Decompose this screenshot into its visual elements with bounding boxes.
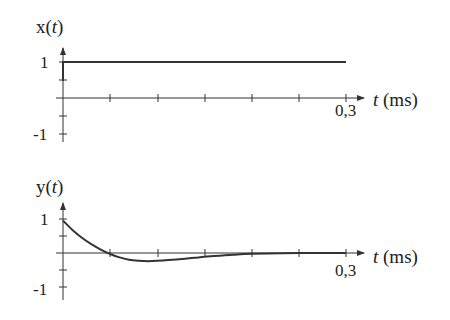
bottom-ylabel-y: y( (36, 176, 52, 198)
top-ytick-label-minus1: -1 (33, 125, 47, 144)
bottom-xtick-label-end: 0,3 (335, 261, 356, 280)
bottom-ytick-label-1: 1 (40, 210, 49, 229)
top-xtick-label-end: 0,3 (335, 101, 356, 120)
chart-canvas: x(t) 1 -1 0,3 t (ms) y(t) (0, 0, 450, 320)
bottom-ylabel-close: ) (57, 176, 63, 198)
bottom-ylabel: y(t) (36, 176, 63, 198)
series-x-line (63, 62, 346, 81)
top-xlabel-unit: (ms) (378, 89, 418, 111)
bottom-xlabel-unit: (ms) (378, 246, 418, 268)
bottom-ytick-label-minus1: -1 (33, 280, 47, 299)
plot-x: x(t) 1 -1 0,3 t (ms) (33, 16, 418, 144)
top-ylabel-x: x( (36, 16, 52, 38)
top-ylabel: x(t) (36, 16, 63, 38)
plot-y: y(t) 1 -1 0,3 t (ms) (33, 176, 418, 300)
top-ytick-label-1: 1 (40, 53, 49, 72)
top-xlabel: t (ms) (373, 89, 418, 111)
top-ylabel-close: ) (57, 16, 63, 38)
bottom-xlabel: t (ms) (373, 246, 418, 268)
